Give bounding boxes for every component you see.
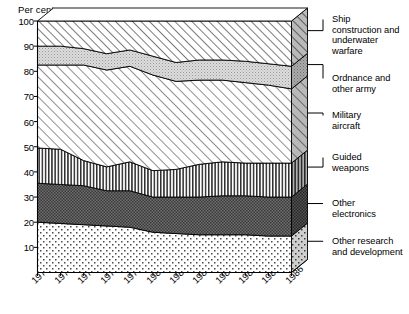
area-bands [38, 21, 292, 273]
plot-canvas [0, 0, 409, 314]
legend-leader-2 [308, 65, 324, 79]
legend-leader-1 [308, 20, 324, 31]
legend-leader-3 [308, 113, 324, 115]
band-military-aircraft-side-face [292, 76, 308, 163]
legend-leader-4 [308, 158, 324, 168]
legend-leader-lines [308, 20, 324, 242]
stacked-area-chart: Per cent 100908070605040302010 197519761… [0, 0, 409, 314]
three-d-top-cap [38, 8, 308, 21]
